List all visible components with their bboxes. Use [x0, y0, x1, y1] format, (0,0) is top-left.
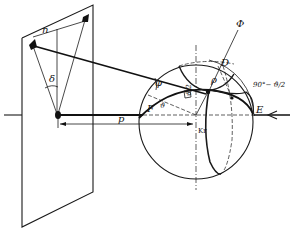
secondary-point: [230, 96, 233, 99]
diagram: n δ p Ф: [0, 0, 290, 233]
n-dimension: [33, 21, 85, 112]
label-p: p: [118, 113, 125, 124]
label-phi: φ: [155, 77, 162, 88]
label-theta: ϑ: [160, 102, 165, 110]
label-complement: 90°− ϑ/2: [253, 81, 286, 89]
p-dimension: [58, 118, 193, 128]
label-n: n: [42, 24, 48, 35]
label-E: E: [255, 104, 264, 115]
label-rho: ρ: [210, 74, 217, 85]
label-delta: δ: [49, 73, 55, 84]
convergent-rays: [33, 20, 85, 114]
label-axis-symbol: Ф: [236, 18, 244, 29]
meridian-front: [206, 90, 221, 174]
source-points: [29, 14, 89, 50]
label-half-angle: ϑ/2: [185, 84, 193, 96]
label-Kr: Kr: [198, 127, 207, 135]
label-F: F: [146, 103, 155, 114]
label-D: D: [220, 57, 229, 68]
